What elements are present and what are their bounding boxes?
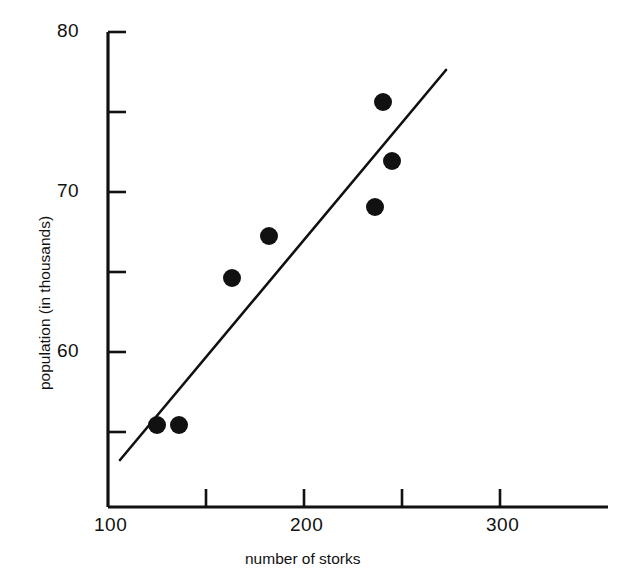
data-point [148,416,166,434]
y-axis-title: population (in thousands) [36,216,54,390]
scatter-plot-figure: 80 70 60 100 200 300 population (in thou… [0,0,632,579]
data-point [383,152,401,170]
x-axis-tick-label-300: 300 [486,514,519,536]
x-axis-tick-label-200: 200 [290,514,323,536]
data-point [260,227,278,245]
y-axis-tick-label-60: 60 [57,340,79,362]
plot-canvas [0,0,632,579]
y-axis-tick-label-80: 80 [57,20,79,42]
x-axis-tick-label-100: 100 [94,514,127,536]
data-point [374,93,392,111]
x-axis-title: number of storks [245,550,360,568]
y-axis-tick-label-70: 70 [57,180,79,202]
data-point [170,416,188,434]
data-point [366,198,384,216]
trend-line [120,70,446,460]
data-point [223,269,241,287]
